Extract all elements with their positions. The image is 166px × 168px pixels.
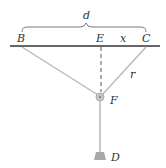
label-r: r <box>130 68 136 81</box>
rope-BF <box>22 47 98 95</box>
label-E: E <box>95 32 104 45</box>
rope-CF <box>102 47 146 95</box>
label-D: D <box>110 151 120 164</box>
weight-D <box>94 152 106 160</box>
label-B: B <box>16 32 25 45</box>
label-F: F <box>109 94 118 107</box>
label-C: C <box>142 32 151 45</box>
pulley-diagram: d B E x C r F D <box>0 0 166 168</box>
label-x: x <box>120 32 127 45</box>
label-d: d <box>83 9 90 22</box>
pulley-axle <box>99 96 101 98</box>
distance-brace <box>22 23 146 32</box>
